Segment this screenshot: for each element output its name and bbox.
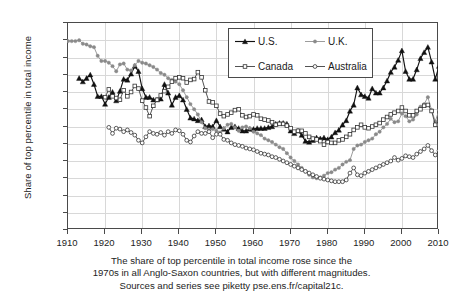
y-tick-mark	[63, 108, 67, 109]
uk-marker-icon	[304, 36, 326, 47]
x-tick-mark	[290, 229, 291, 234]
legend-item-australia: Australia	[299, 61, 374, 72]
y-tick-mark	[63, 57, 67, 58]
x-tick-mark	[141, 229, 142, 234]
us-marker-icon	[234, 36, 256, 47]
legend-item-canada: Canada	[229, 61, 299, 72]
y-tick-mark	[63, 212, 67, 213]
caption-line-2: 1970s in all Anglo-Saxon countries, but …	[0, 267, 463, 279]
x-tick-label: 2010	[414, 238, 462, 248]
x-tick-mark	[215, 229, 216, 234]
y-axis-title: Share of top percentile in total income	[22, 12, 33, 224]
y-tick-mark	[63, 39, 67, 40]
y-tick-mark	[63, 195, 67, 196]
x-tick-mark	[364, 229, 365, 234]
series-australia	[107, 125, 438, 183]
x-tick-mark	[67, 229, 68, 234]
figure-caption: The share of top percentile in total inc…	[0, 255, 463, 292]
legend-item-uk: U.K.	[299, 36, 374, 47]
legend-label-us: U.S.	[258, 37, 277, 47]
y-tick-mark	[63, 22, 67, 23]
x-tick-mark	[438, 229, 439, 234]
legend-item-us: U.S.	[229, 36, 299, 47]
x-tick-mark	[178, 229, 179, 234]
legend-label-australia: Australia	[328, 62, 367, 72]
y-tick-mark	[63, 91, 67, 92]
caption-line-1: The share of top percentile in total inc…	[0, 255, 463, 267]
x-tick-mark	[327, 229, 328, 234]
legend-label-uk: U.K.	[328, 37, 347, 47]
x-tick-mark	[253, 229, 254, 234]
australia-marker-icon	[304, 61, 326, 72]
x-tick-mark	[401, 229, 402, 234]
caption-line-3: Sources and series see piketty pse.ens.f…	[0, 280, 463, 292]
income-share-chart-figure: Share of top percentile in total income …	[0, 0, 463, 301]
y-tick-mark	[63, 126, 67, 127]
canada-marker-icon	[234, 61, 256, 72]
legend-label-canada: Canada	[258, 62, 293, 72]
x-tick-mark	[104, 229, 105, 234]
y-tick-mark	[63, 143, 67, 144]
y-tick-mark	[63, 74, 67, 75]
chart-legend: U.S. U.K. Canada Australia	[228, 28, 373, 78]
y-tick-mark	[63, 160, 67, 161]
y-tick-mark	[63, 177, 67, 178]
